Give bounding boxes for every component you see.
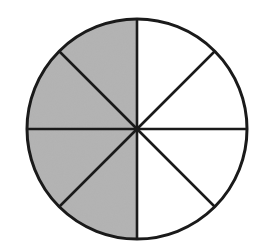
fraction-circle-diagram [0, 0, 262, 247]
